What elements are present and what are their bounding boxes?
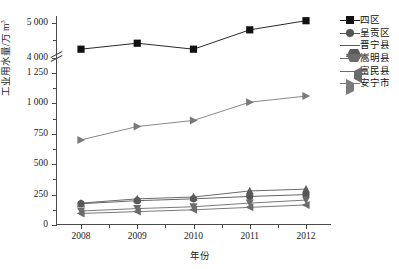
- legend-marker-icon: [340, 14, 360, 26]
- legend-item-晋宁县[interactable]: 晋宁县: [340, 39, 399, 52]
- series-安宁市: [77, 92, 310, 144]
- data-point-marker: [77, 46, 84, 53]
- data-point-marker: [246, 98, 254, 106]
- legend-item-label: 富民县: [360, 66, 390, 76]
- legend-item-label: 嵩明县: [360, 53, 390, 63]
- data-point-marker: [134, 40, 141, 47]
- legend-marker-icon: [340, 39, 360, 51]
- legend: 四区呈贡区晋宁县嵩明县富民县安宁市: [340, 14, 399, 90]
- legend-item-富民县[interactable]: 富民县: [340, 64, 399, 77]
- legend-item-label: 呈贡区: [360, 28, 390, 38]
- chart-figure: 工业用水量/万 m3 02505007501 0001 2504 0005 00…: [0, 0, 399, 269]
- series-line: [81, 21, 306, 50]
- legend-item-label: 安宁市: [360, 78, 390, 88]
- data-point-marker: [190, 46, 197, 53]
- data-point-marker: [302, 92, 310, 100]
- series-四区: [77, 17, 309, 53]
- legend-marker-icon: [340, 65, 360, 77]
- data-point-marker: [77, 136, 85, 144]
- data-point-marker: [134, 123, 142, 131]
- legend-marker-icon: [340, 77, 360, 89]
- legend-marker-icon: [340, 27, 360, 39]
- data-point-marker: [246, 26, 253, 33]
- series-line: [81, 96, 306, 140]
- legend-item-呈贡区[interactable]: 呈贡区: [340, 27, 399, 40]
- data-point-marker: [302, 17, 309, 24]
- legend-item-安宁市[interactable]: 安宁市: [340, 77, 399, 90]
- legend-marker-icon: [340, 52, 360, 64]
- legend-item-label: 四区: [360, 15, 380, 25]
- data-point-marker: [190, 116, 198, 124]
- legend-item-label: 晋宁县: [360, 40, 390, 50]
- legend-item-四区[interactable]: 四区: [340, 14, 399, 27]
- legend-item-嵩明县[interactable]: 嵩明县: [340, 52, 399, 65]
- x-axis-title: 年份: [0, 248, 399, 262]
